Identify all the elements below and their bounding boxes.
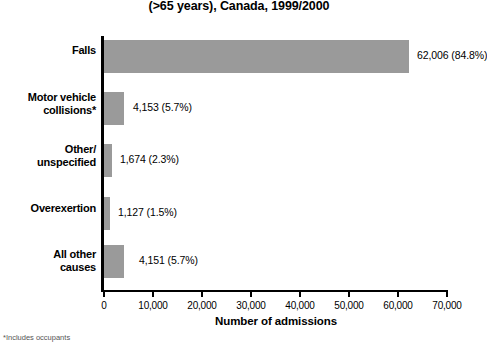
x-tick-mark xyxy=(299,290,301,297)
category-label-motor-vehicle-collisions: Motor vehicle collisions* xyxy=(0,91,96,117)
category-label-line1: Motor vehicle xyxy=(0,91,96,104)
bar-motor-vehicle-collisions xyxy=(104,92,124,125)
bar-value-overexertion: 1,127 (1.5%) xyxy=(118,206,177,218)
category-label-line1: Overexertion xyxy=(0,202,96,215)
category-label-overexertion: Overexertion xyxy=(0,202,96,215)
x-tick-mark xyxy=(103,290,105,297)
bar-other-unspecified xyxy=(104,144,112,177)
category-label-line1: All other xyxy=(0,248,96,261)
category-label-line1: Other/ xyxy=(0,143,96,156)
category-label-line2: collisions* xyxy=(0,104,96,117)
chart-title: (>65 years), Canada, 1999/2000 xyxy=(0,0,478,14)
bar-value-motor-vehicle-collisions: 4,153 (5.7%) xyxy=(133,101,192,113)
category-label-all-other-causes: All other causes xyxy=(0,248,96,274)
x-tick-mark xyxy=(397,290,399,297)
x-tick-mark xyxy=(201,290,203,297)
category-label-line2: unspecified xyxy=(0,156,96,169)
bar-all-other-causes xyxy=(104,245,124,278)
bar-value-other-unspecified: 1,674 (2.3%) xyxy=(120,153,179,165)
x-tick-mark xyxy=(446,290,448,297)
x-axis-title: Number of admissions xyxy=(104,315,448,327)
x-tick-label-70000: 70,000 xyxy=(417,300,477,311)
bar-value-falls: 62,006 (84.8%) xyxy=(417,49,487,61)
category-label-line2: causes xyxy=(0,261,96,274)
category-label-falls: Falls xyxy=(0,44,96,57)
plot-area: 62,006 (84.8%) 4,153 (5.7%) 1,674 (2.3%)… xyxy=(104,35,448,291)
bar-falls xyxy=(104,40,409,73)
bar-overexertion xyxy=(104,197,110,230)
bar-value-all-other-causes: 4,151 (5.7%) xyxy=(139,254,198,266)
x-tick-mark xyxy=(348,290,350,297)
x-tick-mark xyxy=(250,290,252,297)
category-label-line1: Falls xyxy=(0,44,96,57)
x-tick-mark xyxy=(152,290,154,297)
category-label-other-unspecified: Other/ unspecified xyxy=(0,143,96,169)
footnote: *Includes occupants xyxy=(3,333,70,342)
